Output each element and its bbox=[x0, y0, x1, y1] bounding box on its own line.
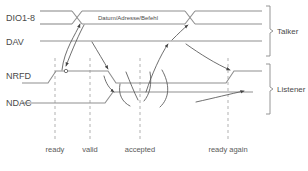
arrow-dio-to-ndac bbox=[126, 72, 138, 100]
arrow-ndac-bundle bbox=[119, 84, 130, 106]
signal-label-dio: DIO1-8 bbox=[6, 13, 35, 23]
arrow-dio-to-dav bbox=[66, 25, 84, 66]
arrow-dav-to-dio bbox=[172, 25, 188, 40]
time-guides bbox=[55, 58, 228, 140]
group-brackets: Talker Listener bbox=[266, 6, 306, 114]
bracket-talker bbox=[266, 6, 273, 56]
ndac-trace bbox=[22, 92, 253, 103]
arrow-nrfd-to-dio bbox=[62, 24, 80, 70]
arrow-ndac-to-dav bbox=[146, 44, 168, 92]
group-label-talker: Talker bbox=[277, 27, 299, 36]
timing-diagram-canvas: Datum/Adresse/Befehl bbox=[0, 0, 308, 171]
waveform-nrfd bbox=[22, 71, 262, 83]
signal-label-dav: DAV bbox=[6, 37, 24, 47]
handshake-arrows bbox=[62, 24, 244, 107]
signal-label-nrfd: NRFD bbox=[6, 71, 31, 81]
arrow-dio-to-ndac-2 bbox=[144, 72, 151, 101]
time-label-ready-again: ready again bbox=[208, 145, 247, 154]
arrow-ndac-reassert bbox=[196, 91, 244, 102]
nrfd-node-marker bbox=[64, 69, 67, 72]
time-label-ready: ready bbox=[46, 145, 65, 154]
group-label-listener: Listener bbox=[277, 85, 306, 94]
arrow-dav-to-nrfd-again bbox=[186, 44, 230, 70]
waveform-ndac bbox=[22, 92, 253, 103]
nrfd-trace bbox=[22, 71, 262, 83]
time-label-valid: valid bbox=[82, 145, 97, 154]
time-marker-labels: ready valid accepted ready again bbox=[46, 145, 248, 154]
signal-label-ndac: NDAC bbox=[6, 98, 32, 108]
bracket-listener bbox=[266, 64, 273, 114]
arrow-ndac-bundle-2 bbox=[160, 70, 168, 107]
arrow-dav-to-nrfd bbox=[92, 42, 108, 69]
dio-bus-content-label: Datum/Adresse/Befehl bbox=[98, 15, 158, 21]
timing-diagram: Datum/Adresse/Befehl bbox=[0, 0, 308, 171]
waveform-dio: Datum/Adresse/Befehl bbox=[40, 11, 262, 24]
signal-labels: DIO1-8 DAV NRFD NDAC bbox=[6, 13, 35, 108]
time-label-accepted: accepted bbox=[125, 145, 155, 154]
